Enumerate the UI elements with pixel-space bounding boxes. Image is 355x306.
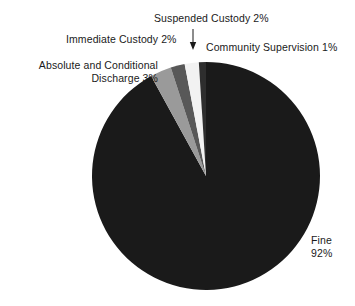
slice-label-immediate-custody: Immediate Custody 2% xyxy=(66,33,177,46)
slice-label-suspended-custody: Suspended Custody 2% xyxy=(154,12,269,25)
slice-label-absolute-line-1: Absolute and Conditional xyxy=(8,59,158,72)
slice-label-absolute-and-conditional-discharge: Absolute and Conditional Discharge 3% xyxy=(8,59,158,85)
down-arrow-icon xyxy=(190,29,196,50)
slice-label-fine: Fine 92% xyxy=(311,234,332,260)
slice-label-fine-name: Fine xyxy=(311,234,332,247)
slice-label-absolute-line-2: Discharge 3% xyxy=(8,72,158,85)
pie-chart: Suspended Custody 2% Immediate Custody 2… xyxy=(0,0,355,306)
slice-label-community-supervision: Community Supervision 1% xyxy=(206,41,337,54)
slice-label-fine-value: 92% xyxy=(311,247,332,260)
